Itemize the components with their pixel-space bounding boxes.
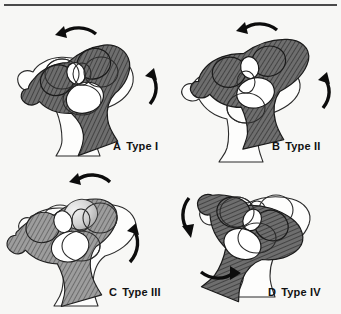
top-divider-rule [4,4,337,6]
rotation-arrow-top-a [55,26,96,38]
panel-type-i: AType I [0,12,170,164]
caption-panel-a: AType I [113,140,158,152]
panel-type-label-b: Type II [285,140,320,152]
rotation-arrow-top-c [69,173,110,185]
caption-panel-b: BType II [272,140,321,152]
figure-root: AType I [0,0,341,314]
panel-type-iii: CType III [0,160,170,312]
panel-letter-b: B [272,140,280,152]
caption-panel-c: CType III [109,286,161,298]
panel-type-label-a: Type I [126,140,158,152]
rotation-arrow-right-b [318,72,330,108]
panel-type-label-d: Type IV [281,286,321,298]
panel-type-ii: BType II [171,12,341,164]
panel-letter-d: D [268,286,276,298]
rotation-arrow-top-b [236,22,277,34]
panel-type-label-c: Type III [122,286,161,298]
panel-type-iv: DType IV [171,160,341,312]
panel-letter-c: C [109,286,117,298]
panel-letter-a: A [113,140,121,152]
rotation-arrow-right-a [145,68,157,104]
rotation-arrow-left-d [182,198,194,238]
caption-panel-d: DType IV [268,286,321,298]
